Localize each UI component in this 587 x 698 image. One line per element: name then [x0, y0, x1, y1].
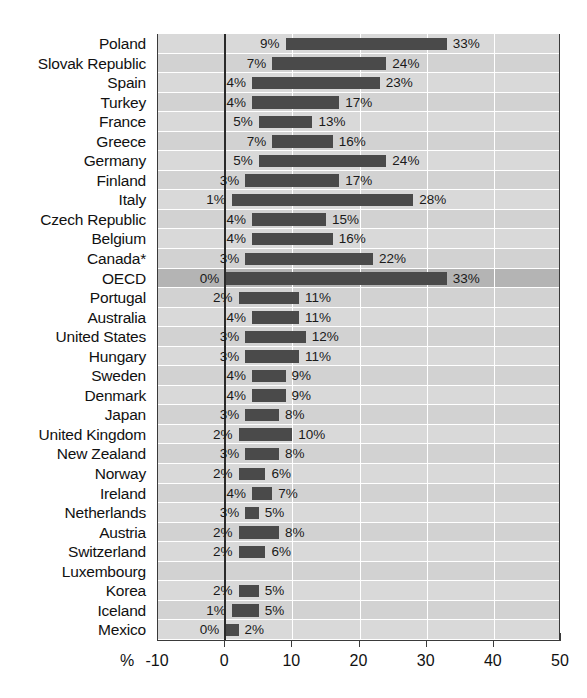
bar-high-value-label: 17% — [345, 171, 372, 191]
range-bar — [286, 38, 447, 51]
bar-low-value-label: 3% — [197, 249, 239, 269]
chart-row: 3%12% — [158, 327, 559, 347]
x-axis-tick — [493, 640, 494, 647]
category-label: Canada* — [0, 249, 152, 269]
range-bar — [245, 507, 258, 520]
x-axis-tick-label: 10 — [261, 652, 321, 670]
category-label: Norway — [0, 464, 152, 484]
category-label: Greece — [0, 132, 152, 152]
range-bar — [252, 77, 380, 90]
bar-low-value-label: 7% — [224, 54, 266, 74]
chart-row: 4%16% — [158, 229, 559, 249]
bar-low-value-label: 2% — [191, 523, 233, 543]
x-axis-unit-label: % — [120, 652, 134, 670]
bar-high-value-label: 9% — [292, 386, 312, 406]
range-bar — [239, 585, 259, 598]
x-axis-tick — [560, 633, 561, 641]
bar-low-value-label: 3% — [197, 327, 239, 347]
x-axis-tick-label: 50 — [530, 652, 587, 670]
chart-row: 1%28% — [158, 190, 559, 210]
bar-low-value-label: 5% — [211, 151, 253, 171]
x-axis-tick — [224, 640, 225, 647]
bar-low-value-label: 4% — [204, 308, 246, 328]
chart-row: 3%8% — [158, 405, 559, 425]
category-label-column: PolandSlovak RepublicSpainTurkeyFranceGr… — [0, 34, 152, 640]
range-bar — [252, 370, 286, 383]
bar-high-value-label: 9% — [292, 366, 312, 386]
bar-low-value-label: 2% — [191, 288, 233, 308]
x-axis-tick — [359, 640, 360, 647]
category-label: Czech Republic — [0, 210, 152, 230]
bar-high-value-label: 13% — [318, 112, 345, 132]
x-axis-tick-label: 20 — [329, 652, 389, 670]
bar-high-value-label: 16% — [339, 132, 366, 152]
bar-low-value-label: 4% — [204, 366, 246, 386]
category-label: France — [0, 112, 152, 132]
category-label: Belgium — [0, 229, 152, 249]
category-label: Switzerland — [0, 542, 152, 562]
bar-low-value-label: 2% — [191, 425, 233, 445]
chart-row: 2%6% — [158, 464, 559, 484]
category-label: Japan — [0, 405, 152, 425]
category-label: Korea — [0, 581, 152, 601]
category-label: Iceland — [0, 601, 152, 621]
bar-high-value-label: 15% — [332, 210, 359, 230]
bar-low-value-label: 4% — [204, 386, 246, 406]
range-bar — [245, 253, 373, 266]
chart-row: 2%5% — [158, 581, 559, 601]
bar-low-value-label: 2% — [191, 542, 233, 562]
range-bar — [252, 233, 333, 246]
chart-row: 2%8% — [158, 523, 559, 543]
plot-area: 9%33%7%24%4%23%4%17%5%13%7%16%5%24%3%17%… — [157, 34, 560, 640]
bar-high-value-label: 10% — [298, 425, 325, 445]
range-bar — [239, 292, 299, 305]
bar-low-value-label: 3% — [197, 444, 239, 464]
bar-low-value-label: 4% — [204, 93, 246, 113]
bar-low-value-label: 0% — [177, 269, 219, 289]
range-bar — [239, 526, 279, 539]
category-label: Portugal — [0, 288, 152, 308]
range-bar — [259, 116, 313, 129]
bar-high-value-label: 11% — [305, 308, 331, 328]
category-label: Turkey — [0, 93, 152, 113]
bar-high-value-label: 24% — [392, 151, 419, 171]
x-axis-tick-label: -10 — [127, 652, 187, 670]
chart-row: 2%6% — [158, 542, 559, 562]
bar-low-value-label: 3% — [197, 405, 239, 425]
category-label: Spain — [0, 73, 152, 93]
chart-row: 3%22% — [158, 249, 559, 269]
category-label: Netherlands — [0, 503, 152, 523]
range-bar — [259, 155, 387, 168]
chart-row: 4%23% — [158, 73, 559, 93]
bar-high-value-label: 8% — [285, 523, 305, 543]
chart-row: 4%9% — [158, 386, 559, 406]
bar-low-value-label: 0% — [177, 620, 219, 640]
chart-row: 7%24% — [158, 54, 559, 74]
chart-row: 5%13% — [158, 112, 559, 132]
range-bar — [232, 194, 413, 207]
category-label: Luxembourg — [0, 562, 152, 582]
chart-row: 3%5% — [158, 503, 559, 523]
range-bar — [245, 331, 305, 344]
range-bar — [252, 389, 286, 402]
range-bar — [252, 96, 339, 109]
category-label: Poland — [0, 34, 152, 54]
category-label: United States — [0, 327, 152, 347]
range-bar — [225, 624, 238, 637]
bar-high-value-label: 24% — [392, 54, 419, 74]
x-axis-tick-label: 0 — [194, 652, 254, 670]
chart-row: 4%17% — [158, 93, 559, 113]
category-label: Italy — [0, 190, 152, 210]
range-bar — [252, 213, 326, 226]
chart-row: 9%33% — [158, 34, 559, 54]
chart-row: 4%7% — [158, 484, 559, 504]
range-bar — [239, 468, 266, 481]
bar-low-value-label: 1% — [184, 601, 226, 621]
category-label: Ireland — [0, 484, 152, 504]
bar-low-value-label: 2% — [191, 581, 233, 601]
category-label: Finland — [0, 171, 152, 191]
bar-low-value-label: 3% — [197, 503, 239, 523]
bar-low-value-label: 4% — [204, 229, 246, 249]
bar-low-value-label: 3% — [197, 347, 239, 367]
bar-high-value-label: 28% — [419, 190, 446, 210]
